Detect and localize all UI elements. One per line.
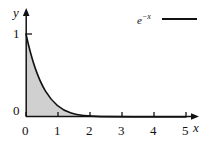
x-axis-arrowhead <box>191 113 199 120</box>
x-tick-label-2: 2 <box>86 124 93 137</box>
plot-area <box>0 0 205 145</box>
x-tick-label-0: 0 <box>22 124 29 137</box>
y-tick-label-0: 0 <box>13 104 20 117</box>
x-tick-label-1: 1 <box>54 124 61 137</box>
y-tick-label-1: 1 <box>13 27 20 40</box>
area-fill <box>26 34 186 117</box>
legend-exponent: −x <box>142 12 151 21</box>
x-tick-label-3: 3 <box>118 124 125 137</box>
exponential-decay-figure: y x 1 0 0 1 2 3 4 5 e−x <box>0 0 205 145</box>
x-axis-label: x <box>193 121 199 134</box>
y-axis-label: y <box>13 6 19 19</box>
legend-entry-label: e−x <box>137 13 151 26</box>
x-tick-label-5: 5 <box>182 124 189 137</box>
x-tick-label-4: 4 <box>150 124 157 137</box>
y-axis-arrowhead <box>23 8 30 16</box>
